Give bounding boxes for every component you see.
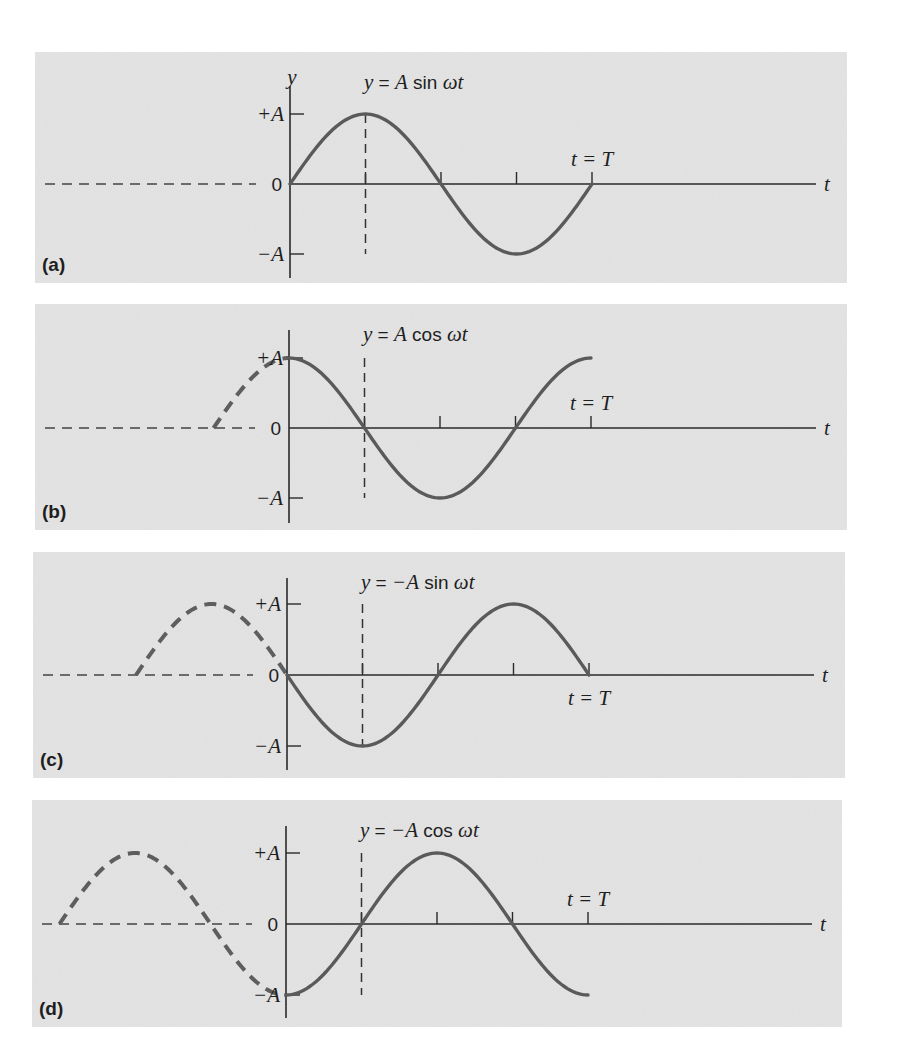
equation-amp: A	[393, 70, 408, 94]
y-tick-label-plus-a: +A	[256, 346, 283, 370]
y-tick-label-plus-a: +A	[253, 841, 280, 865]
y-tick-label-zero: 0	[270, 418, 281, 439]
equation-eq: =	[373, 72, 395, 93]
equation-lhs: y	[361, 322, 373, 346]
equation-fn: cos	[407, 324, 447, 345]
y-tick-label-minus-a: −A	[253, 983, 280, 1007]
y-tick-label-minus-a: −A	[256, 486, 283, 510]
equation-lhs: y	[359, 570, 371, 594]
equation-eq: =	[369, 820, 391, 841]
equation-amp: −A	[392, 570, 419, 594]
period-label: t = T	[567, 887, 611, 911]
equation-fn: cos	[418, 820, 458, 841]
panel-d: +A0−Att = Ty = −A cos ωt(d)	[32, 800, 842, 1027]
y-tick-label-plus-a: +A	[254, 592, 281, 616]
y-axis-label: y	[285, 65, 297, 89]
period-label: t = T	[568, 686, 612, 710]
period-label: t = T	[570, 391, 614, 415]
y-tick-label-zero: 0	[267, 914, 278, 935]
equation-arg: ωt	[454, 570, 476, 594]
equation-arg: ωt	[443, 70, 465, 94]
equation-arg: ωt	[447, 322, 469, 346]
y-tick-label-minus-a: −A	[257, 242, 284, 266]
panel-a: +A0−Aytt = Ty = A sin ωt(a)	[35, 52, 847, 283]
equation-label: y = A cos ωt	[361, 322, 469, 346]
equation-eq: =	[370, 572, 392, 593]
panel-c: +A0−Att = Ty = −A sin ωt(c)	[33, 552, 845, 778]
equation-label: y = −A sin ωt	[359, 570, 476, 594]
panel-label: (d)	[39, 998, 63, 1019]
shm-phase-figure: +A0−Aytt = Ty = A sin ωt(a)+A0−Att = Ty …	[0, 0, 897, 1048]
equation-label: y = −A cos ωt	[358, 818, 480, 842]
panel-label: (b)	[42, 501, 66, 522]
equation-label: y = A sin ωt	[362, 70, 464, 94]
period-label: t = T	[571, 147, 615, 171]
panel-label: (a)	[42, 254, 65, 275]
y-tick-label-minus-a: −A	[254, 734, 281, 758]
y-tick-label-zero: 0	[271, 174, 282, 195]
equation-eq: =	[372, 324, 394, 345]
equation-lhs: y	[362, 70, 374, 94]
equation-amp: A	[392, 322, 407, 346]
equation-fn: sin	[408, 72, 443, 93]
panel-b: +A0−Att = Ty = A cos ωt(b)	[35, 304, 847, 530]
equation-arg: ωt	[458, 818, 480, 842]
equation-fn: sin	[419, 572, 454, 593]
equation-lhs: y	[358, 818, 370, 842]
panel-label: (c)	[40, 749, 63, 770]
y-tick-label-plus-a: +A	[257, 102, 284, 126]
y-tick-label-zero: 0	[268, 665, 279, 686]
equation-amp: −A	[391, 818, 418, 842]
